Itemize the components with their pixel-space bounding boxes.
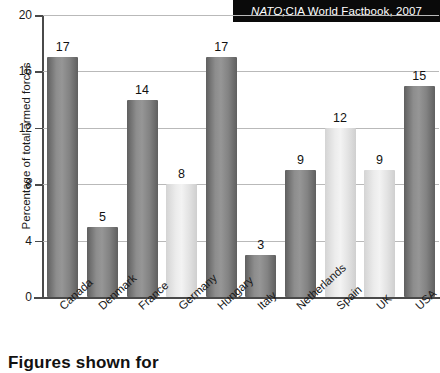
bar-column: 9	[285, 15, 316, 297]
bar-value-label: 9	[376, 153, 383, 167]
y-tick-label: 16	[19, 64, 32, 78]
bar: 17	[47, 57, 78, 297]
bar-value-label: 8	[178, 167, 185, 181]
bar-column: 8	[166, 15, 197, 297]
bar-column: 9	[364, 15, 395, 297]
y-tick-mark	[35, 71, 43, 73]
y-tick-mark	[35, 241, 43, 243]
y-tick-mark	[35, 184, 43, 186]
bar: 8	[166, 184, 197, 297]
plot-area: 048121620 175148173912915	[43, 15, 439, 297]
bar-column: 3	[245, 15, 276, 297]
bar-column: 17	[47, 15, 78, 297]
bar-value-label: 9	[297, 153, 304, 167]
bar-value-label: 15	[412, 69, 426, 83]
bar: 15	[404, 86, 435, 298]
y-tick-label: 8	[25, 177, 32, 191]
bar: 17	[206, 57, 237, 297]
bar-value-label: 12	[333, 111, 347, 125]
y-tick-label: 20	[19, 8, 32, 22]
bar-value-label: 3	[257, 238, 264, 252]
bar: 9	[285, 170, 316, 297]
bar-column: 15	[404, 15, 435, 297]
bar: 14	[127, 100, 158, 297]
y-tick-label: 12	[19, 121, 32, 135]
bar: 9	[364, 170, 395, 297]
y-tick-label: 4	[25, 234, 32, 248]
bar-value-label: 14	[135, 83, 149, 97]
bottom-caption: Figures shown for	[8, 353, 159, 373]
y-tick-mark	[35, 128, 43, 130]
bar-value-label: 5	[99, 210, 106, 224]
y-tick-mark	[35, 15, 43, 17]
y-tick-mark	[35, 297, 43, 299]
bar-column: 17	[206, 15, 237, 297]
y-axis-title: Percentage of total armed forces	[20, 26, 32, 266]
bar-column: 12	[325, 15, 356, 297]
y-tick-label: 0	[25, 290, 32, 304]
bar-column: 14	[127, 15, 158, 297]
bar-value-label: 17	[214, 40, 228, 54]
bar-column: 5	[87, 15, 118, 297]
bar-value-label: 17	[56, 40, 70, 54]
